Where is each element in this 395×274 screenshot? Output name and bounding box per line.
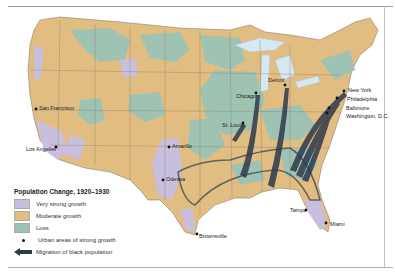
city-label-new-york: New York	[348, 88, 371, 94]
city-label-st-louis: St. Louis	[222, 123, 243, 129]
city-label-washington-dc: Washington, D.C.	[346, 114, 389, 120]
city-label-brownsville: Brownsville	[199, 234, 227, 240]
legend-item-moderate-growth: Moderate growth	[14, 210, 144, 222]
legend-label: Migration of black population	[36, 249, 112, 255]
legend-item-loss: Loss	[14, 222, 144, 234]
city-label-philadelphia: Philadelphia	[347, 97, 377, 103]
legend-item-migration: Migration of black population	[14, 246, 144, 258]
legend-item-urban-areas: Urban areas of strong growth	[14, 234, 144, 246]
legend-label: Very strong growth	[36, 201, 86, 207]
legend-title: Population Change, 1920–1930	[14, 188, 144, 195]
city-label-odessa: Odessa	[166, 177, 185, 183]
city-label-tampa: Tampa	[290, 208, 307, 214]
city-label-detroit: Detroit	[268, 78, 284, 84]
city-label-amarillo: Amarillo	[172, 144, 192, 150]
very-strong-growth-swatch	[14, 199, 30, 209]
migration-arrow-icon	[14, 248, 32, 256]
city-label-san-francisco: San Francisco	[39, 106, 74, 112]
urban-dot-icon	[22, 239, 25, 242]
city-label-baltimore: Baltimore	[346, 106, 369, 112]
map-figure: San Francisco Los Angeles Amarillo Odess…	[0, 0, 395, 274]
city-label-los-angeles: Los Angeles	[26, 147, 56, 153]
legend-item-very-strong-growth: Very strong growth	[14, 198, 144, 210]
legend-label: Urban areas of strong growth	[38, 237, 116, 243]
city-label-miami: Miami	[330, 222, 345, 228]
city-label-chicago: Chicago	[236, 94, 256, 100]
loss-swatch	[14, 223, 30, 233]
legend-label: Loss	[36, 225, 49, 231]
legend-label: Moderate growth	[36, 213, 81, 219]
map-legend: Population Change, 1920–1930 Very strong…	[14, 188, 144, 258]
moderate-growth-swatch	[14, 211, 30, 221]
